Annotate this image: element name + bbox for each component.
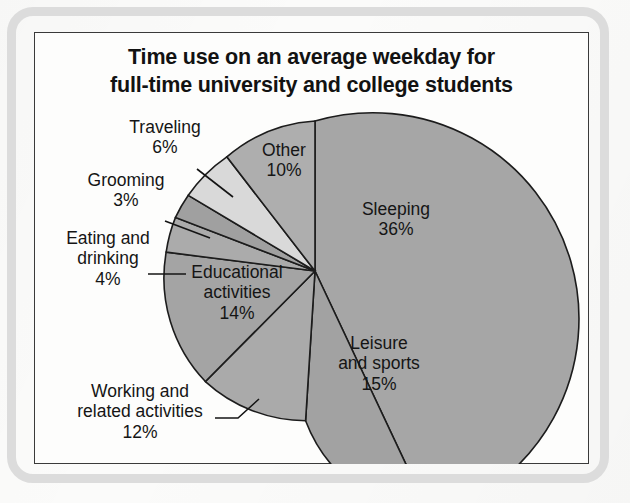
slice-label-eating-pct: 4% [38, 269, 178, 289]
slice-label-traveling: Traveling 6% [104, 117, 226, 158]
slice-label-educational-pct: 14% [170, 303, 304, 323]
slice-label-sleeping-name: Sleeping [344, 199, 448, 219]
slice-label-educational-line-2: activities [170, 282, 304, 302]
slice-label-grooming-name: Grooming [56, 170, 196, 190]
slice-label-other-name: Other [243, 140, 325, 160]
slice-label-sleeping: Sleeping 36% [344, 199, 448, 240]
slice-label-traveling-pct: 6% [104, 137, 226, 157]
slice-label-eating-line-2: drinking [38, 248, 178, 268]
slice-label-other-pct: 10% [243, 160, 325, 180]
slice-label-eating-line-1: Eating and [38, 228, 178, 248]
slice-label-leisure-line-1: Leisure [316, 333, 442, 353]
chart-page: Time use on an average weekday for full-… [0, 0, 630, 503]
slice-label-sleeping-pct: 36% [344, 219, 448, 239]
slice-label-working-line-1: Working and [36, 381, 244, 401]
slice-label-working-and-related-activities: Working and related activities 12% [36, 381, 244, 442]
slice-label-other: Other 10% [243, 140, 325, 181]
slice-label-leisure-line-2: and sports [316, 353, 442, 373]
slice-label-traveling-name: Traveling [104, 117, 226, 137]
slice-label-leisure-and-sports: Leisure and sports 15% [316, 333, 442, 394]
slice-label-grooming-pct: 3% [56, 190, 196, 210]
slice-label-educational-activities: Educational activities 14% [170, 262, 304, 323]
slice-label-leisure-pct: 15% [316, 374, 442, 394]
slice-label-working-line-2: related activities [36, 401, 244, 421]
slice-label-eating-and-drinking: Eating and drinking 4% [38, 228, 178, 289]
slice-label-educational-line-1: Educational [170, 262, 304, 282]
slice-label-grooming: Grooming 3% [56, 170, 196, 211]
slice-label-working-pct: 12% [36, 422, 244, 442]
